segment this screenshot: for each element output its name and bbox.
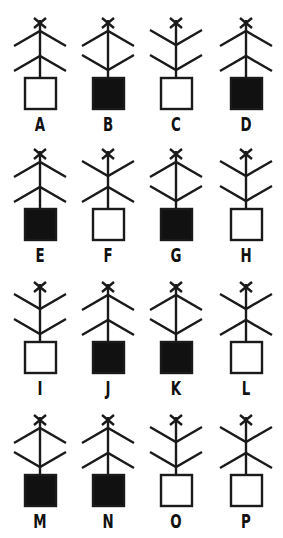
filled-square [25,209,56,240]
filled-square [93,475,124,506]
figure-label: F [92,245,123,265]
figure-label: M [24,511,55,531]
figure-I [14,282,66,373]
figure-D [220,18,272,109]
figure-N [82,415,134,506]
figure-O [150,415,202,506]
figure-label: J [92,378,123,398]
figure-label: I [24,378,55,398]
figure-H [220,149,272,240]
figure-F [82,149,134,240]
figure-label: N [92,511,123,531]
open-square [93,209,124,240]
figure-B [82,18,134,109]
figure-P [220,415,272,506]
figure-label: B [92,114,123,134]
filled-square [231,78,262,109]
open-square [231,209,262,240]
figure-M [14,415,66,506]
figure-E [14,149,66,240]
open-square [25,78,56,109]
figure-C [150,18,202,109]
figure-matrix-drawing [0,0,283,538]
open-square [161,78,192,109]
figure-label: G [160,245,191,265]
filled-square [25,475,56,506]
figure-label: E [24,245,55,265]
figure-label: D [230,114,261,134]
figure-matrix: ABCDEFGHIJKLMNOP [0,0,283,538]
figure-label: H [230,245,261,265]
figure-label: L [230,378,261,398]
figure-label: K [160,378,191,398]
figure-J [82,282,134,373]
figure-label: P [230,511,261,531]
figure-label: O [160,511,191,531]
figure-A [14,18,66,109]
open-square [231,475,262,506]
filled-square [161,342,192,373]
figure-G [150,149,202,240]
filled-square [93,78,124,109]
figure-label: C [160,114,191,134]
open-square [25,342,56,373]
filled-square [161,209,192,240]
open-square [161,475,192,506]
figure-label: A [24,114,55,134]
figure-K [150,282,202,373]
filled-square [93,342,124,373]
figure-L [220,282,272,373]
open-square [231,342,262,373]
